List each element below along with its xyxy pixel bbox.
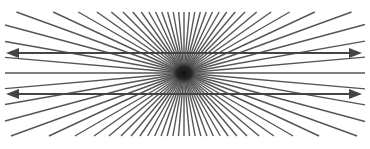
arrowhead-right-icon <box>349 48 362 58</box>
center-vanishing-point <box>170 61 198 85</box>
arrowhead-left-icon <box>6 89 19 99</box>
hering-illusion-figure <box>0 0 370 149</box>
arrowhead-left-icon <box>6 48 19 58</box>
arrowhead-right-icon <box>349 89 362 99</box>
